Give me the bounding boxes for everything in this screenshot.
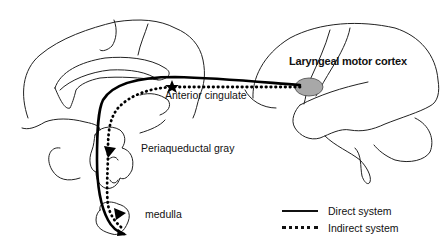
medial-brain-sulcus — [100, 20, 116, 51]
corpus-callosum-outline — [55, 57, 169, 108]
temporal-lobe-outline — [325, 136, 370, 184]
legend-label: Indirect system — [328, 222, 399, 234]
label-laryngeal-motor-cortex: Laryngeal motor cortex — [289, 56, 407, 67]
medulla-outline — [96, 202, 129, 235]
medulla-marker — [114, 208, 126, 220]
label-medulla: medulla — [145, 209, 182, 220]
medial-right-curve — [140, 120, 165, 133]
medial-brain-outline — [24, 20, 205, 118]
medial-base — [22, 119, 100, 130]
legend: Direct system Indirect system — [282, 202, 442, 236]
direct-arrowhead — [117, 229, 127, 236]
periaqueductal-gray-marker — [104, 146, 116, 158]
legend-item-indirect: Indirect system — [282, 219, 442, 236]
label-anterior-cingulate: Anterior cingulate — [165, 90, 247, 101]
medial-left-lobe — [49, 148, 80, 180]
solid-line-icon — [282, 206, 318, 216]
medial-brain-sulcus — [138, 24, 148, 55]
legend-item-direct: Direct system — [282, 202, 442, 219]
brainstem-detail — [108, 157, 118, 183]
dotted-line-icon — [282, 223, 318, 233]
label-periaqueductal-gray: Periaqueductal gray — [141, 143, 234, 154]
legend-label: Direct system — [328, 205, 392, 217]
frontal-curve — [245, 90, 276, 108]
